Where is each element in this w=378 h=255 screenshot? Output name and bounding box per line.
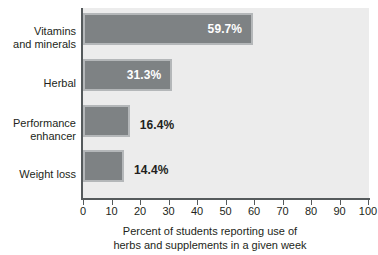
category-label-line: Herbal	[0, 77, 76, 90]
category-label-line: enhancer	[0, 130, 76, 143]
bar-performance-enhancer[interactable]	[83, 105, 130, 137]
category-label-performance-enhancer: Performance enhancer	[0, 117, 76, 143]
category-label-herbal: Herbal	[0, 77, 76, 90]
chart-figure: Vitamins and minerals Herbal Performance…	[0, 0, 378, 255]
category-label-line: and minerals	[0, 38, 76, 51]
x-axis-caption-line: herbs and supplements in a given week	[60, 239, 360, 253]
bar-value-label-weight-loss: 14.4%	[134, 163, 169, 177]
category-label-line: Vitamins	[0, 25, 76, 38]
bar-vitamins-and-minerals[interactable]: 59.7%	[83, 13, 253, 45]
category-label-vitamins-and-minerals: Vitamins and minerals	[0, 25, 76, 51]
category-label-weight-loss: Weight loss	[0, 168, 76, 181]
x-axis-caption: Percent of students reporting use of her…	[60, 225, 360, 252]
category-label-line: Performance	[0, 117, 76, 130]
bar-value-label-performance-enhancer: 16.4%	[140, 118, 175, 132]
category-label-line: Weight loss	[0, 168, 76, 181]
bar-herbal[interactable]: 31.3%	[83, 59, 172, 91]
x-tick-label: 100	[348, 205, 378, 217]
x-axis-caption-line: Percent of students reporting use of	[60, 225, 360, 239]
bar-weight-loss[interactable]	[83, 150, 124, 182]
bar-value-label: 59.7%	[208, 22, 252, 36]
bar-value-label: 31.3%	[127, 68, 171, 82]
chart-title-clipped	[0, 0, 378, 3]
